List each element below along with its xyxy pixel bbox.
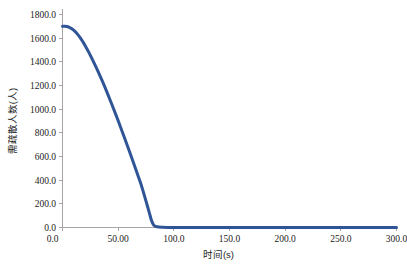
x-tick-label: 150.0 [219, 234, 241, 244]
y-tick-label: 200.0 [35, 199, 57, 209]
x-axis-title: 时间(s) [203, 249, 234, 260]
chart-canvas: 0.0200.0400.0600.0800.01000.01200.01400.… [0, 0, 407, 265]
x-tick-label: 100.0 [163, 234, 185, 244]
data-series-line [63, 26, 397, 227]
x-tick-label: 300.0 [386, 234, 407, 244]
y-tick-label: 1000.0 [30, 105, 56, 115]
x-axis-ticks: 0.050.00100.0150.0200.0250.0300.0 [47, 228, 407, 244]
x-tick-label: 200.0 [274, 234, 296, 244]
y-tick-label: 600.0 [35, 152, 57, 162]
y-tick-label: 800.0 [35, 128, 57, 138]
y-axis-ticks: 0.0200.0400.0600.0800.01000.01200.01400.… [30, 10, 63, 233]
y-tick-label: 1600.0 [30, 34, 56, 44]
y-tick-label: 1400.0 [30, 57, 56, 67]
y-tick-label: 1200.0 [30, 81, 56, 91]
x-tick-label: 50.00 [107, 234, 129, 244]
y-axis-title: 需疏散人数(人) [7, 88, 18, 154]
y-tick-label: 400.0 [35, 176, 57, 186]
evacuation-line-chart: 0.0200.0400.0600.0800.01000.01200.01400.… [0, 0, 407, 265]
x-tick-label: 0.0 [47, 234, 59, 244]
y-tick-label: 0.0 [44, 223, 56, 233]
series-group [63, 26, 397, 227]
x-tick-label: 250.0 [330, 234, 352, 244]
y-tick-label: 1800.0 [30, 10, 56, 20]
